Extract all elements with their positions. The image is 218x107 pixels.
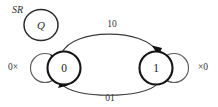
self-loop-1-label: ×0 <box>198 62 208 72</box>
state-node-1: 1 <box>140 52 173 85</box>
self-loop-0-label: 0× <box>8 62 18 72</box>
transition-top-label: 10 <box>107 19 117 29</box>
q-node-label: Q <box>37 19 45 31</box>
state-diagram-canvas: Q SR 0 1 <box>0 0 218 107</box>
state-1-label: 1 <box>153 62 159 74</box>
transition-0-to-1 <box>62 34 162 55</box>
arc-top-path <box>62 34 157 53</box>
transition-bottom-label: 01 <box>105 93 115 103</box>
output-node-q: Q <box>24 10 58 41</box>
state-node-0: 0 <box>48 52 81 85</box>
state-diagram: Q SR 0 1 <box>0 0 218 107</box>
state-0-label: 0 <box>61 62 67 74</box>
sr-label: SR <box>12 4 23 15</box>
